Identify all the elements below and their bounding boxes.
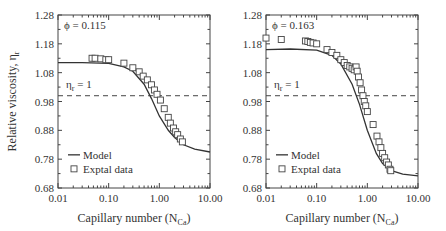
data-marker <box>179 139 185 145</box>
data-marker <box>376 139 382 145</box>
data-marker <box>357 80 363 86</box>
chart-panel-1: 0.680.780.880.981.081.181.280.010.101.00… <box>5 9 223 227</box>
legend-model-label: Model <box>291 149 320 161</box>
data-marker <box>374 133 380 139</box>
model-line <box>58 63 210 152</box>
x-tick-label: 10.00 <box>406 192 431 204</box>
data-marker <box>157 97 163 103</box>
legend-model-label: Model <box>83 149 112 161</box>
reference-label: ηr = 1 <box>274 78 300 93</box>
data-marker <box>130 65 136 71</box>
legend-data-label: Exptal data <box>291 163 341 175</box>
data-marker <box>378 145 384 151</box>
legend-data-label: Exptal data <box>83 163 133 175</box>
y-tick-label: 0.98 <box>243 96 263 108</box>
x-tick-label: 0.01 <box>48 192 67 204</box>
data-marker <box>263 35 269 41</box>
phi-annotation: ϕ = 0.163 <box>272 19 315 31</box>
data-marker <box>363 103 369 109</box>
y-tick-label: 1.28 <box>243 9 263 21</box>
x-tick-label: 0.10 <box>99 192 119 204</box>
data-marker <box>388 168 394 174</box>
data-marker <box>165 114 171 120</box>
model-line <box>266 49 418 176</box>
x-tick-label: 0.10 <box>307 192 327 204</box>
data-marker <box>121 60 127 66</box>
x-tick-label: 1.00 <box>150 192 170 204</box>
y-tick-label: 1.08 <box>35 67 55 79</box>
data-marker <box>360 93 366 99</box>
y-tick-label: 0.78 <box>35 153 55 165</box>
y-tick-label: 0.78 <box>243 153 263 165</box>
y-tick-label: 0.88 <box>243 124 263 136</box>
data-marker <box>92 55 98 61</box>
legend-data-swatch <box>279 166 285 172</box>
data-marker <box>354 68 360 74</box>
data-marker <box>356 74 362 80</box>
plot-frame <box>58 15 210 188</box>
x-axis-label: Capillary number (NCa) <box>78 211 191 227</box>
x-tick-label: 10.00 <box>198 192 223 204</box>
x-tick-label: 1.00 <box>358 192 378 204</box>
x-tick-label: 0.01 <box>256 192 275 204</box>
y-tick-label: 0.98 <box>35 96 55 108</box>
chart-panel-2: 0.680.780.880.981.081.181.280.010.101.00… <box>243 9 431 227</box>
data-marker <box>370 122 376 128</box>
y-axis-label: Relative viscosity, ηr <box>5 51 21 151</box>
data-marker <box>154 91 160 97</box>
reference-label: ηr = 1 <box>66 78 92 93</box>
x-axis-label: Capillary number (NCa) <box>286 211 399 227</box>
y-tick-label: 1.18 <box>243 38 263 50</box>
y-tick-label: 0.88 <box>35 124 55 136</box>
chart-canvas: 0.680.780.880.981.081.181.280.010.101.00… <box>0 0 446 231</box>
data-marker <box>161 106 167 112</box>
y-tick-label: 1.08 <box>243 67 263 79</box>
plot-frame <box>266 15 418 188</box>
data-marker <box>314 41 320 47</box>
data-marker <box>106 57 112 63</box>
phi-annotation: ϕ = 0.115 <box>64 19 106 31</box>
legend-data-swatch <box>71 166 77 172</box>
data-marker <box>359 87 365 93</box>
y-tick-label: 1.18 <box>35 38 55 50</box>
data-marker <box>364 109 370 115</box>
y-tick-label: 1.28 <box>35 9 55 21</box>
data-marker <box>278 37 284 43</box>
